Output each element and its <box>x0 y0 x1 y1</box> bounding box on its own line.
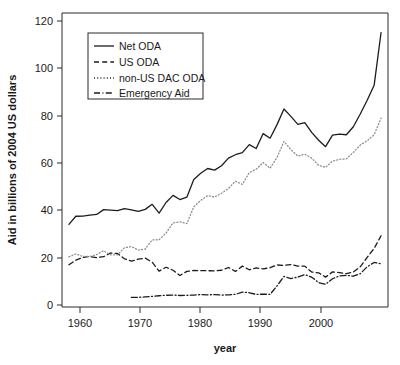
line-chart-svg: 120 100 80 60 40 20 0 1960 1970 1980 199… <box>0 0 400 365</box>
y-tick-label-0: 0 <box>47 299 53 311</box>
y-tick-label-80: 80 <box>41 110 53 122</box>
x-tick-label-1970: 1970 <box>128 317 152 329</box>
x-tick-label-1990: 1990 <box>248 317 272 329</box>
x-axis-tick-labels: 1960 1970 1980 1990 2000 <box>68 317 333 329</box>
x-tick-label-1980: 1980 <box>188 317 212 329</box>
legend-label-us-oda: US ODA <box>119 56 159 68</box>
y-axis-tick-labels: 120 100 80 60 40 20 0 <box>35 15 53 311</box>
x-tick-label-2000: 2000 <box>309 317 333 329</box>
legend-label-net-oda: Net ODA <box>119 40 161 52</box>
x-axis-ticks <box>80 307 321 313</box>
chart-figure: 120 100 80 60 40 20 0 1960 1970 1980 199… <box>0 0 400 365</box>
y-tick-label-100: 100 <box>35 62 53 74</box>
legend-label-non-us-dac-oda: non-US DAC ODA <box>119 72 205 84</box>
y-tick-label-120: 120 <box>35 15 53 27</box>
y-axis-title: Aid in billions of 2004 US dollars <box>6 75 18 246</box>
chart-legend: Net ODA US ODA non-US DAC ODA Emergency … <box>88 33 205 99</box>
y-tick-label-20: 20 <box>41 252 53 264</box>
x-axis-title: year <box>214 342 237 354</box>
x-tick-label-1960: 1960 <box>68 317 92 329</box>
y-tick-label-60: 60 <box>41 157 53 169</box>
legend-label-emergency-aid: Emergency Aid <box>119 87 190 99</box>
y-tick-label-40: 40 <box>41 204 53 216</box>
y-axis-ticks <box>57 21 62 305</box>
series-path-non-us-dac-oda <box>69 118 381 257</box>
series-path-us-oda <box>69 236 381 277</box>
